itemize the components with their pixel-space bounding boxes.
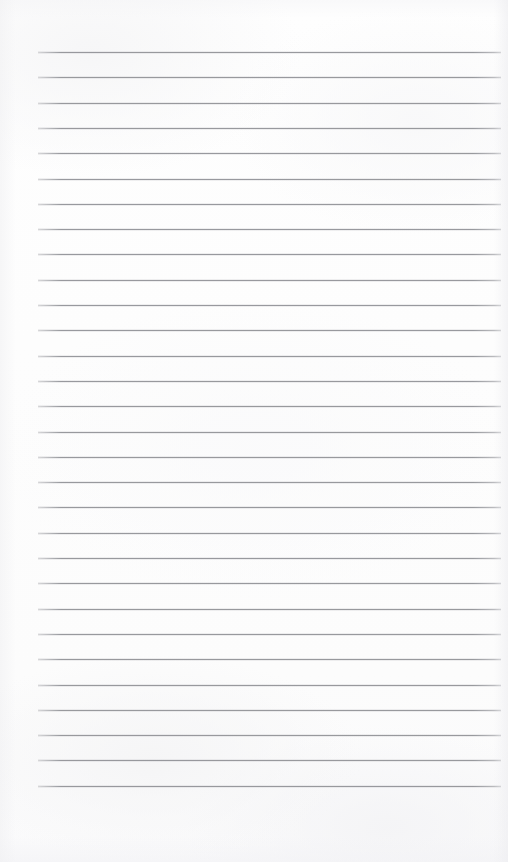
page-body-text bbox=[38, 52, 501, 786]
writing-area[interactable] bbox=[38, 52, 501, 786]
scanned-page bbox=[0, 0, 508, 862]
